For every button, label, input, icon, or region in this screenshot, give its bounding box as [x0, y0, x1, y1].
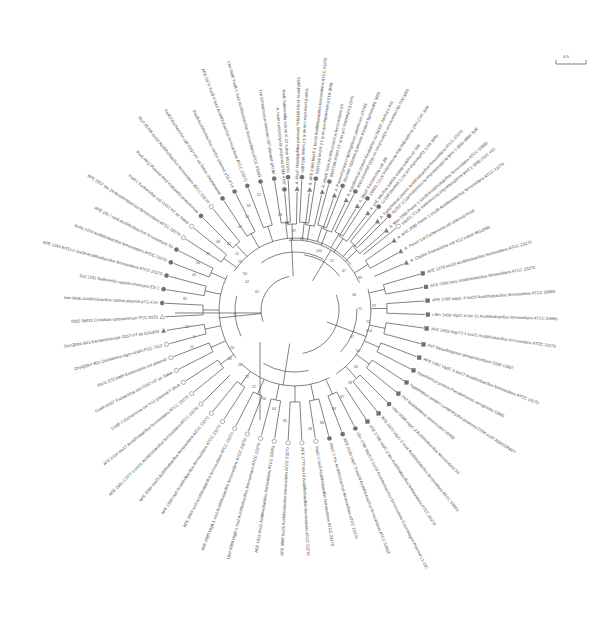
- bootstrap-value: 11: [190, 345, 194, 349]
- radial-tree-svg: A. toxin Lamprocystis purpurea DSM 4197A…: [0, 0, 602, 625]
- bootstrap-value: 50: [356, 349, 360, 353]
- tip-label: AFE 1773 tox14 Acidithiobacillus ferroox…: [300, 447, 311, 556]
- tip-label: AFE 1417 tox6 Acidithiobacillus ferrooxi…: [94, 205, 175, 249]
- tree-branches: [165, 180, 425, 440]
- bootstrap-value: 75: [238, 260, 242, 264]
- bootstrap-value: 65: [228, 357, 232, 361]
- bootstrap-value: 58: [348, 381, 352, 385]
- bootstrap-value: 47: [350, 335, 354, 339]
- bootstrap-value: 43: [308, 427, 312, 431]
- bootstrap-value: 62: [247, 204, 251, 208]
- bootstrap-value: 50: [230, 346, 234, 350]
- scale-bar: [556, 60, 586, 64]
- bootstrap-value: 28: [278, 213, 282, 217]
- tip-label: OxyQDb4 9D1 Escherichia coli O157:H7 str…: [63, 329, 160, 349]
- bootstrap-value: 97: [372, 304, 376, 308]
- bootstrap-value: 72: [366, 320, 370, 324]
- bootstrap-value: 15: [235, 252, 239, 256]
- bootstrap-value: 42: [238, 225, 242, 229]
- bootstrap-value: 71: [233, 313, 237, 317]
- bootstrap-value: 85: [183, 297, 187, 301]
- bootstrap-value: 52: [185, 325, 189, 329]
- tip-label: Lfer 0995 YoeB-1 tox5 Acidithiobacillus …: [226, 61, 262, 179]
- tip-label: VapC-1 tox3 Acidithiobacillus ferrooxida…: [314, 445, 335, 547]
- bootstrap-value: 85: [283, 419, 287, 423]
- bootstrap-value: 83: [332, 407, 336, 411]
- tip-label: A. MazF Haemophilus parasuis SH0165 M1-H…: [294, 77, 301, 185]
- tip-label: Lferr 1456 VapC-4 tox 15 Acidithiobacill…: [432, 312, 558, 321]
- bootstrap-value: 36: [300, 237, 304, 241]
- tip-label: Gsf 2192 Gallionella capsiferriformans E…: [79, 273, 160, 291]
- bootstrap-value: 22: [257, 193, 261, 197]
- scale-bar-label: 0.5: [563, 54, 569, 59]
- tip-label: ban RelE Acidithiobacillus caldus plasmi…: [64, 295, 158, 305]
- bootstrap-value: 50: [285, 221, 289, 225]
- bootstrap-value: 37: [292, 229, 296, 233]
- bootstrap-value: 47: [342, 269, 346, 273]
- tip-labels: A. toxin Lamprocystis purpurea DSM 4197A…: [42, 57, 558, 570]
- tip-label: Txe Enterococcus faecium U37 plasmid pRU…: [258, 89, 276, 175]
- bootstrap-value: 43: [216, 240, 220, 244]
- tip-label: AFE 1613 tox11 Acidithiobacillus ferroox…: [254, 445, 276, 553]
- tip-label: PilT Burkholderia xenovorans LB400: [401, 394, 457, 441]
- tip-label: YoeB Escherichia coli str K-12 substr MG…: [300, 88, 309, 174]
- tip-label: AFE 2935 NapT2-1 tox21 Acidithiobacillus…: [431, 326, 557, 349]
- bootstrap-value: 26: [238, 363, 242, 367]
- tip-label: AFE 3099 tox25 Acidithiobacillus ferroox…: [279, 446, 290, 555]
- bootstrap-value: 67: [340, 395, 344, 399]
- bootstrap-value: 23: [206, 252, 210, 256]
- tip-label: RDD 36431 Crinalium epipsammum PCC 9333: [71, 314, 158, 324]
- bootstrap-value: 43: [192, 273, 196, 277]
- bootstrap-value: 22: [245, 375, 249, 379]
- bootstrap-value: 9: [193, 335, 195, 339]
- tip-label: CcdB-O157 Escherichia coli O157:H7 str S…: [94, 370, 173, 414]
- bootstrap-value: 22: [245, 280, 249, 284]
- bootstrap-value: 89: [358, 276, 362, 280]
- bootstrap-values: 7171977265489622250751542438550234362144…: [183, 193, 376, 431]
- bootstrap-value: 34: [352, 293, 356, 297]
- bootstrap-value: 71: [358, 307, 362, 311]
- tip-label: AFE 1780 VapC-4 tox15 Acidithiobacillus …: [432, 289, 556, 303]
- phylogenetic-tree-figure: A. toxin Lamprocystis purpurea DSM 4197A…: [0, 0, 602, 625]
- scale-bar-group: 0.5: [556, 54, 586, 64]
- bootstrap-value: 42: [227, 242, 231, 246]
- bootstrap-value: 62: [255, 290, 259, 294]
- bootstrap-value: 100: [316, 249, 322, 253]
- bootstrap-value: 50: [196, 261, 200, 265]
- tip-label: AFE 1364 Ecf11-1 tox29 Acidithiobacillus…: [42, 240, 163, 277]
- bootstrap-value: 64: [272, 407, 276, 411]
- bootstrap-value: 52: [330, 259, 334, 263]
- tip-markers: [160, 175, 430, 445]
- bootstrap-value: 62: [354, 365, 358, 369]
- bootstrap-value: 22: [252, 385, 256, 389]
- bootstrap-value: 50: [243, 272, 247, 276]
- bootstrap-value: 14: [245, 215, 249, 219]
- bootstrap-value: 86: [320, 421, 324, 425]
- bootstrap-value: 654: [366, 329, 372, 333]
- bootstrap-value: 96: [262, 397, 266, 401]
- tip-label: Acifa 2204 Acidithiobacillus ferrooxidan…: [74, 223, 168, 263]
- tip-label: PasB Acidithiobacillus caldus plasmid pT…: [192, 109, 236, 189]
